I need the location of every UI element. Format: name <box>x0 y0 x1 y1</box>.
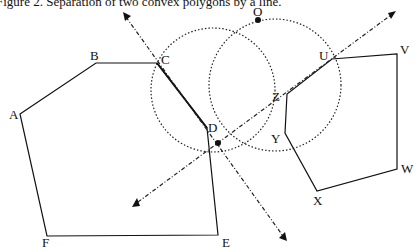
label-w: W <box>401 161 414 176</box>
convex-polygons-separation-diagram: Figure 2. Separation of two convex polyg… <box>0 0 416 251</box>
label-a: A <box>9 107 19 122</box>
line-cd-extended <box>126 17 283 236</box>
label-z: Z <box>272 89 280 104</box>
intersection-point-dot <box>215 140 221 146</box>
polygon-right <box>285 54 397 191</box>
arrowhead-up-right-icon <box>388 11 396 19</box>
line-pu-extended <box>138 15 391 202</box>
caption-text: Figure 2. Separation of two convex polyg… <box>0 0 282 9</box>
label-v: V <box>400 42 410 57</box>
label-f: F <box>42 235 49 250</box>
arrowhead-down-left-icon <box>132 198 140 207</box>
label-y: Y <box>271 131 281 146</box>
arrowhead-up-left-icon <box>123 12 131 21</box>
arrowhead-down-right-icon <box>279 232 287 241</box>
label-b: B <box>90 48 99 63</box>
label-x: X <box>313 193 323 208</box>
label-e: E <box>222 235 230 250</box>
label-c: C <box>161 52 170 67</box>
label-u: U <box>319 48 329 63</box>
label-o: O <box>253 4 262 19</box>
polygon-left <box>20 63 218 236</box>
label-d: D <box>208 120 217 135</box>
